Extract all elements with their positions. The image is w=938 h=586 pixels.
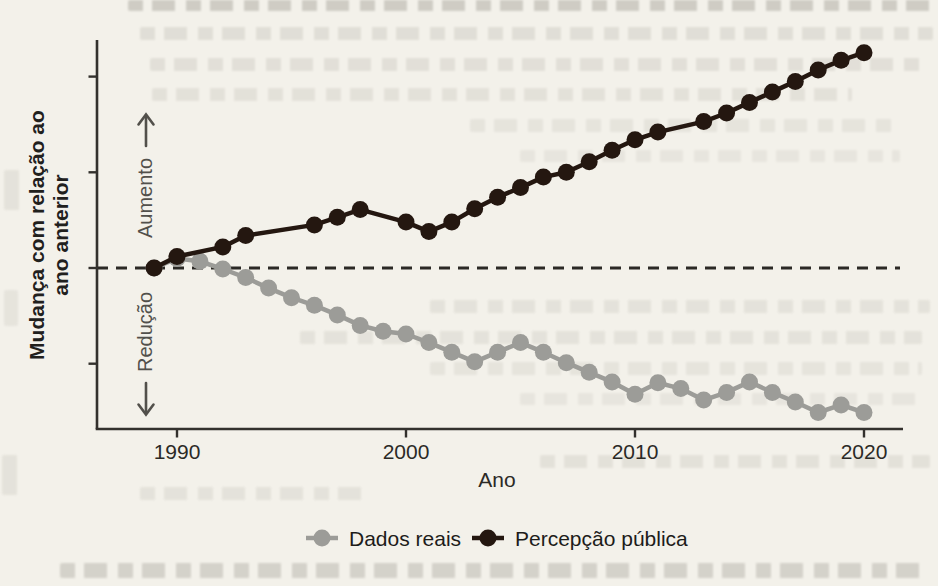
down-arrow-icon bbox=[139, 383, 154, 415]
data-point bbox=[283, 289, 300, 306]
data-point bbox=[604, 142, 621, 159]
data-point bbox=[558, 164, 575, 181]
data-point bbox=[764, 384, 781, 401]
series-dados-reais bbox=[146, 250, 873, 421]
data-point bbox=[833, 396, 850, 413]
data-point bbox=[443, 214, 460, 231]
data-point bbox=[856, 44, 873, 61]
data-point bbox=[398, 214, 415, 231]
data-point bbox=[604, 373, 621, 390]
data-point bbox=[466, 200, 483, 217]
series-percepcao-publica bbox=[146, 44, 873, 276]
data-point bbox=[535, 169, 552, 186]
x-axis-title: Ano bbox=[478, 468, 515, 491]
data-point bbox=[695, 113, 712, 130]
data-point bbox=[581, 153, 598, 170]
book-page: 1990200020102020 Mudança com relação ao … bbox=[0, 0, 938, 586]
data-point bbox=[787, 394, 804, 411]
reducao-label: Redução bbox=[134, 292, 156, 372]
data-point bbox=[214, 238, 231, 255]
legend-marker-dados-reais bbox=[306, 530, 338, 547]
data-point bbox=[512, 179, 529, 196]
data-point bbox=[627, 131, 644, 148]
data-point bbox=[306, 216, 323, 233]
data-point bbox=[489, 189, 506, 206]
data-point bbox=[649, 124, 666, 141]
data-point bbox=[352, 317, 369, 334]
data-point bbox=[214, 261, 231, 278]
data-point bbox=[627, 386, 644, 403]
legend: Dados reais Percepção pública bbox=[306, 527, 688, 550]
data-point bbox=[581, 364, 598, 381]
series-line bbox=[154, 53, 864, 268]
data-point bbox=[329, 209, 346, 226]
y-axis-title-line2: ano anterior bbox=[49, 174, 72, 295]
data-point bbox=[741, 94, 758, 111]
data-point bbox=[306, 297, 323, 314]
data-point bbox=[146, 260, 163, 277]
data-point bbox=[352, 201, 369, 218]
data-point bbox=[375, 323, 392, 340]
data-point bbox=[260, 280, 277, 297]
x-tick-label-1990: 1990 bbox=[154, 440, 201, 463]
data-point bbox=[443, 344, 460, 361]
series-line bbox=[154, 258, 864, 412]
data-point bbox=[718, 105, 735, 122]
line-chart: 1990200020102020 Mudança com relação ao … bbox=[0, 0, 938, 586]
data-point bbox=[420, 334, 437, 351]
legend-marker-percepcao-publica bbox=[472, 530, 504, 547]
data-point bbox=[329, 306, 346, 323]
data-point bbox=[489, 344, 506, 361]
series-layer bbox=[146, 44, 873, 421]
y-axis-title-line1: Mudança com relação ao bbox=[25, 110, 48, 360]
data-point bbox=[810, 61, 827, 78]
data-point bbox=[856, 404, 873, 421]
data-point bbox=[169, 248, 186, 265]
data-point bbox=[558, 354, 575, 371]
data-point bbox=[741, 373, 758, 390]
data-point bbox=[764, 83, 781, 100]
data-point bbox=[535, 344, 552, 361]
data-point bbox=[833, 52, 850, 69]
data-point bbox=[810, 404, 827, 421]
up-arrow-icon bbox=[139, 115, 154, 147]
x-tick-label-2020: 2020 bbox=[841, 440, 888, 463]
x-axis-tick-labels: 1990200020102020 bbox=[154, 440, 888, 463]
data-point bbox=[649, 374, 666, 391]
data-point bbox=[787, 73, 804, 90]
legend-label-dados-reais: Dados reais bbox=[349, 527, 461, 550]
data-point bbox=[191, 253, 208, 270]
data-point bbox=[718, 384, 735, 401]
legend-label-percepcao-publica: Percepção pública bbox=[515, 527, 688, 550]
data-point bbox=[237, 227, 254, 244]
data-point bbox=[398, 326, 415, 343]
aumento-label: Aumento bbox=[134, 158, 156, 238]
data-point bbox=[420, 223, 437, 240]
x-tick-label-2000: 2000 bbox=[383, 440, 430, 463]
x-tick-label-2010: 2010 bbox=[612, 440, 659, 463]
data-point bbox=[512, 334, 529, 351]
data-point bbox=[695, 392, 712, 409]
data-point bbox=[237, 269, 254, 286]
data-point bbox=[672, 380, 689, 397]
data-point bbox=[466, 353, 483, 370]
